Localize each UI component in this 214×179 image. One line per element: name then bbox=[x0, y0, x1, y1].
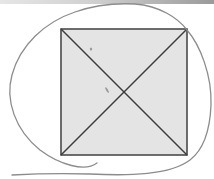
scanned-sketch bbox=[0, 0, 214, 179]
smudge-mark bbox=[90, 47, 92, 50]
sketch-canvas bbox=[0, 0, 214, 179]
